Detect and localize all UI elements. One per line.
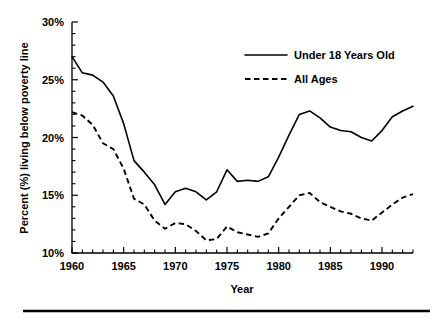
x-axis-title: Year — [230, 283, 254, 295]
chart-legend: Under 18 Years OldAll Ages — [245, 49, 395, 85]
y-tick-label: 20% — [42, 132, 64, 144]
y-tick-label: 10% — [42, 247, 64, 259]
x-tick-label: 1970 — [163, 260, 187, 272]
legend-label-under-18-years-old: Under 18 Years Old — [294, 49, 395, 61]
x-axis-tick-labels: 1960196519701975198019851990 — [60, 260, 394, 272]
y-tick-label: 25% — [42, 74, 64, 86]
x-tick-label: 1990 — [370, 260, 394, 272]
x-tick-label: 1960 — [60, 260, 84, 272]
y-axis-tick-labels: 10%15%20%25%30% — [42, 16, 64, 259]
series-line-under-18-years-old — [72, 57, 413, 205]
series-line-all-ages — [72, 112, 413, 240]
poverty-line-chart: 10%15%20%25%30% 196019651970197519801985… — [0, 0, 436, 321]
x-axis-ticks — [72, 247, 413, 253]
legend-label-all-ages: All Ages — [294, 73, 338, 85]
x-tick-label: 1980 — [266, 260, 290, 272]
y-tick-label: 15% — [42, 189, 64, 201]
x-tick-label: 1965 — [111, 260, 135, 272]
chart-canvas: 10%15%20%25%30% 196019651970197519801985… — [0, 0, 436, 321]
y-tick-label: 30% — [42, 16, 64, 28]
y-axis-title: Percent (%) living below poverty line — [18, 42, 30, 233]
data-series-group — [72, 57, 413, 241]
x-tick-label: 1975 — [215, 260, 239, 272]
x-tick-label: 1985 — [318, 260, 342, 272]
